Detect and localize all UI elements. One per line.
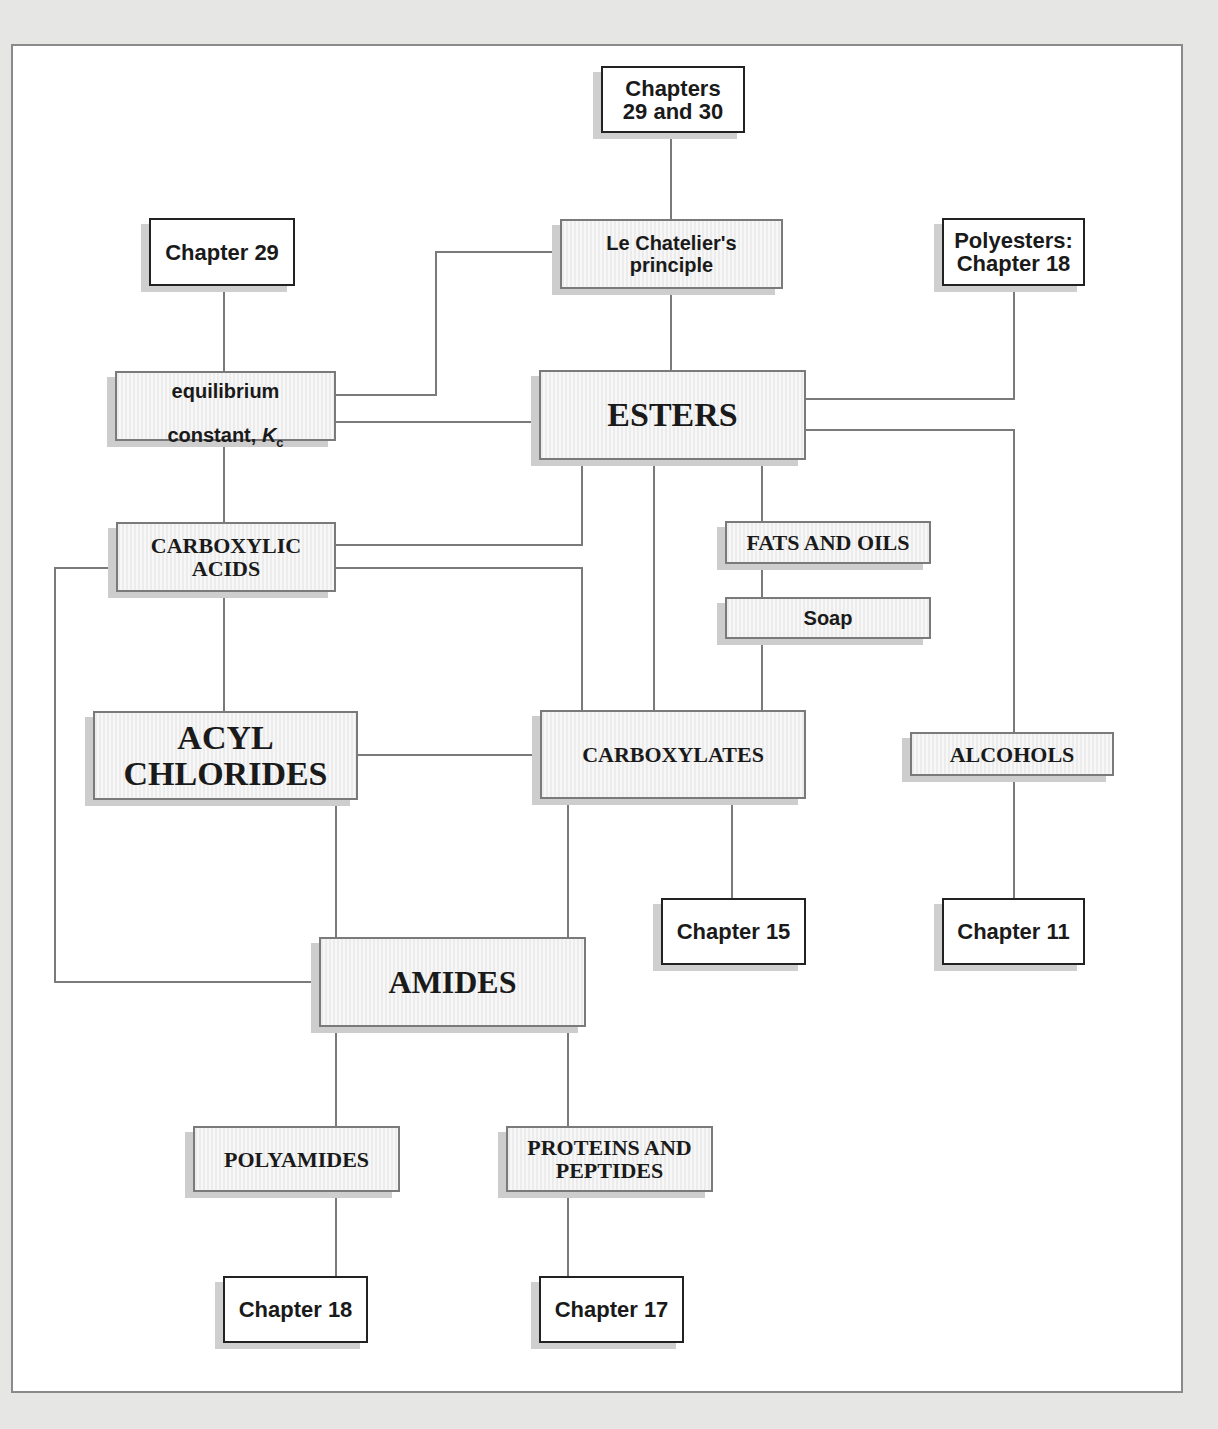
node-chapter-11: Chapter 11 [942, 898, 1085, 965]
node-carboxylates: CARBOXYLATES [540, 710, 806, 799]
node-chapter-15: Chapter 15 [661, 898, 806, 965]
node-polyamides: POLYAMIDES [193, 1126, 400, 1192]
node-proteins-and-peptides: PROTEINS AND PEPTIDES [506, 1126, 713, 1192]
node-polyesters: Polyesters: Chapter 18 [942, 218, 1085, 286]
node-chapters-29-30: Chapters 29 and 30 [601, 66, 745, 133]
node-esters: ESTERS [539, 370, 806, 460]
node-carboxylic-acids: CARBOXYLIC ACIDS [116, 522, 336, 592]
node-amides: AMIDES [319, 937, 586, 1027]
node-alcohols: ALCOHOLS [910, 732, 1114, 776]
node-chapter-17: Chapter 17 [539, 1276, 684, 1343]
node-chapter-29: Chapter 29 [149, 218, 295, 286]
node-acyl-chlorides: ACYL CHLORIDES [93, 711, 358, 800]
node-fats-and-oils: FATS AND OILS [725, 521, 931, 564]
node-chapter-18: Chapter 18 [223, 1276, 368, 1343]
node-equilibrium-constant: equilibrium constant, Kc [115, 371, 336, 441]
node-le-chatelier: Le Chatelier's principle [560, 219, 783, 289]
node-soap: Soap [725, 597, 931, 639]
